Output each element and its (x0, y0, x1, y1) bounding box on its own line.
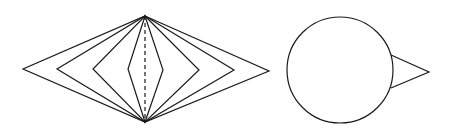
nested-rhombi-figure (23, 16, 269, 122)
diagram-canvas (0, 0, 453, 134)
circle-with-pointer-figure (287, 17, 429, 123)
circle-shape (287, 17, 393, 123)
triangle-pointer (391, 55, 429, 88)
